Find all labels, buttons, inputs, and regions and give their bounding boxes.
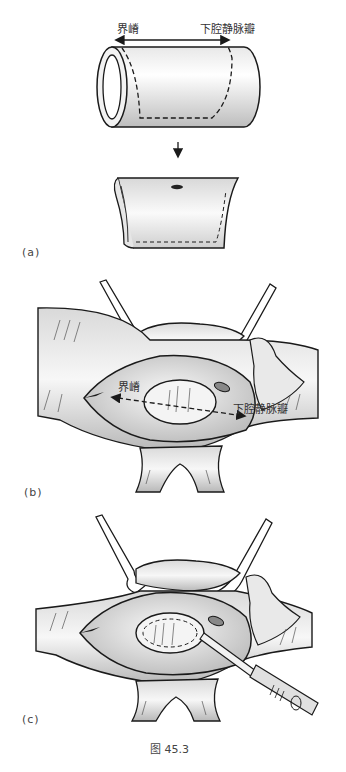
annotation-crista-terminalis: 界嵴 [117, 20, 139, 36]
tube-diagram [0, 0, 346, 265]
panel-label-b: (b) [24, 486, 43, 499]
panel-label-a: (a) [22, 246, 40, 259]
annotation-ivc-valve: 下腔静脉瓣 [200, 20, 255, 36]
annotation-ivc-valve-b: 下腔静脉瓣 [233, 400, 288, 416]
annotation-crista-terminalis-b: 界嵴 [118, 378, 140, 394]
panel-b: 界嵴 下腔静脉瓣 (b) [0, 270, 346, 502]
panel-label-c: (c) [22, 713, 40, 726]
atrium-view-b [0, 270, 346, 502]
figure-caption: 图 45.3 [150, 740, 189, 756]
panel-c: (c) [0, 505, 346, 730]
scalpel-icon [0, 505, 346, 730]
panel-a: 界嵴 下腔静脉瓣 (a) [0, 0, 346, 265]
